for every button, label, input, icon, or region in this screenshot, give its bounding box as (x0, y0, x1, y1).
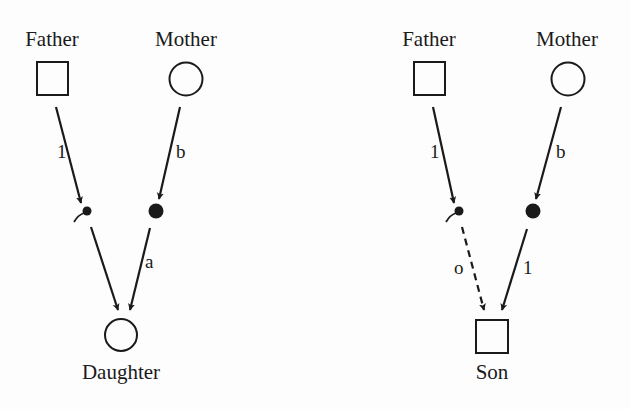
sperm-to-daughter-arrow (91, 227, 118, 310)
mother-circle-icon (552, 63, 585, 96)
sperm-to-child-edge-label: o (454, 257, 464, 278)
father-label: Father (25, 27, 79, 51)
father-square-icon (414, 62, 445, 95)
father-square-icon (37, 62, 68, 95)
sperm-to-son-dashed-arrow (462, 227, 484, 310)
son-square-icon (476, 320, 508, 353)
mother-label: Mother (155, 27, 217, 51)
daughter-circle-icon (105, 319, 137, 351)
sperm-icon (74, 207, 92, 223)
father-edge-label: 1 (57, 141, 67, 162)
egg-icon (526, 204, 541, 219)
mother-edge-label: b (176, 141, 186, 162)
mother-circle-icon (170, 63, 203, 96)
child-label: Daughter (82, 360, 160, 384)
pedigree-diagram: Father Mother 1 b a Daughter Father Moth… (0, 0, 631, 409)
mother-label: Mother (536, 27, 598, 51)
child-label: Son (476, 360, 509, 384)
father-label: Father (402, 27, 456, 51)
father-edge-label: 1 (430, 141, 440, 162)
daughter-inheritance-diagram: Father Mother 1 b a Daughter (25, 27, 217, 384)
son-inheritance-diagram: Father Mother 1 b o 1 Son (402, 27, 598, 384)
sperm-icon (446, 207, 464, 223)
egg-to-child-edge-label: 1 (523, 257, 533, 278)
egg-icon (149, 204, 164, 219)
mother-edge-label: b (556, 141, 566, 162)
egg-to-child-edge-label: a (145, 251, 154, 272)
